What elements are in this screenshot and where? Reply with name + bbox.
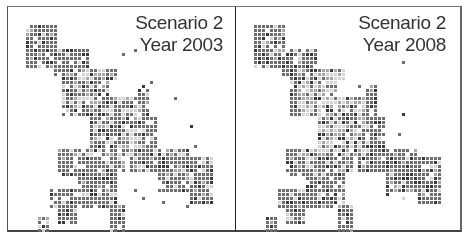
map-panel-2003: Scenario 2 Year 2003 bbox=[7, 6, 236, 232]
scenario-label: Scenario 2 bbox=[135, 12, 223, 34]
panel-title-2003: Scenario 2 Year 2003 bbox=[135, 12, 223, 56]
year-label: Year 2003 bbox=[135, 34, 223, 56]
map-panel-2008: Scenario 2 Year 2008 bbox=[236, 6, 462, 232]
map-figure: Scenario 2 Year 2003 Scenario 2 Year 200… bbox=[0, 0, 469, 247]
panel-title-2008: Scenario 2 Year 2008 bbox=[358, 12, 446, 56]
year-label: Year 2008 bbox=[358, 34, 446, 56]
scenario-label: Scenario 2 bbox=[358, 12, 446, 34]
